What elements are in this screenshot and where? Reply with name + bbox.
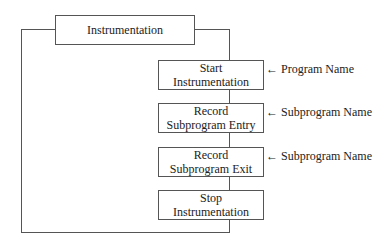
step-line1: Stop [200,191,222,205]
stop-instrumentation-box: Stop Instrumentation [158,190,264,220]
step-line1: Start [200,61,223,75]
step-line2: Instrumentation [173,205,249,219]
connector-bottom-horizontal [21,232,230,233]
record-subprogram-exit-box: Record Subprogram Exit [158,147,264,177]
step-line2: Instrumentation [173,75,249,89]
subprogram-name-entry-annotation: ← Subprogram Name [266,105,372,119]
connector-left-horizontal [21,29,56,30]
instrumentation-box: Instrumentation [55,15,195,45]
connector-left-vertical [21,29,22,233]
program-name-annotation: ← Program Name [266,62,354,76]
step-line1: Record [194,148,229,162]
step-line2: Subprogram Entry [167,118,256,132]
step-line1: Record [194,104,229,118]
start-instrumentation-box: Start Instrumentation [158,60,264,90]
connector-right-horizontal [194,29,230,30]
instrumentation-label: Instrumentation [87,23,163,37]
step-line2: Subprogram Exit [170,162,252,176]
record-subprogram-entry-box: Record Subprogram Entry [158,103,264,133]
subprogram-name-exit-annotation: ← Subprogram Name [266,149,372,163]
